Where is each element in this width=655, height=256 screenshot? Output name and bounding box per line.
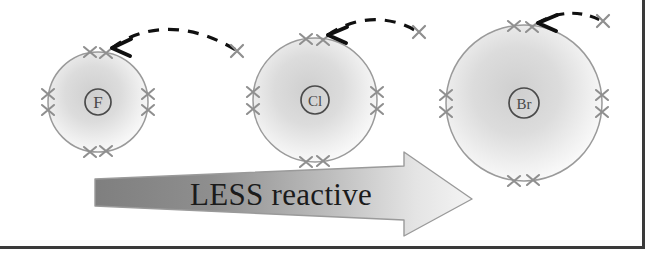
atom-chlorine: Cl (247, 20, 425, 167)
chlorine-incoming-electron-mark (413, 26, 425, 38)
halogen-reactivity-diagram: F Cl (0, 0, 655, 256)
bromine-symbol: Br (517, 96, 532, 112)
figure-canvas: F Cl (0, 0, 655, 256)
atom-bromine: Br (440, 13, 609, 186)
atom-fluorine: F (42, 29, 243, 157)
chlorine-symbol: Cl (308, 93, 322, 109)
trend-arrow-label: LESS reactive (190, 177, 372, 212)
fluorine-arrowhead (112, 39, 131, 56)
bromine-incoming-electron-mark (597, 15, 609, 27)
fluorine-incoming-electron-mark (231, 45, 243, 57)
fluorine-symbol: F (93, 93, 102, 112)
trend-arrow: LESS reactive (95, 152, 472, 236)
